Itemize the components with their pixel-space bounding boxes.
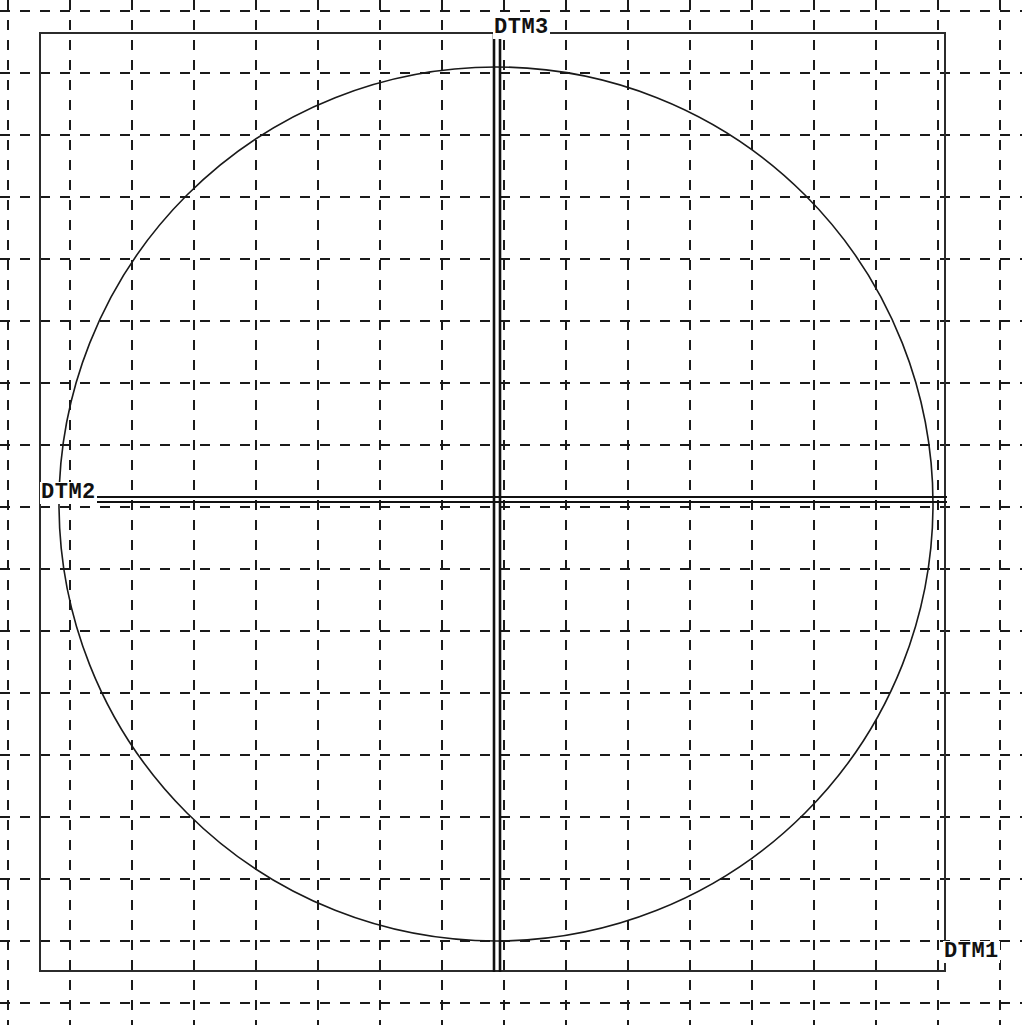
grid-lines — [0, 0, 1022, 1025]
datum-label-dtm2: DTM2 — [40, 482, 97, 504]
cad-drawing — [0, 0, 1022, 1025]
datum-line-dtm2 — [92, 497, 947, 502]
main-circle — [59, 67, 933, 941]
datum-label-dtm1: DTM1 — [943, 941, 1000, 963]
datum-label-dtm3: DTM3 — [493, 17, 550, 39]
drawing-canvas: DTM3 DTM2 DTM1 — [0, 0, 1022, 1025]
